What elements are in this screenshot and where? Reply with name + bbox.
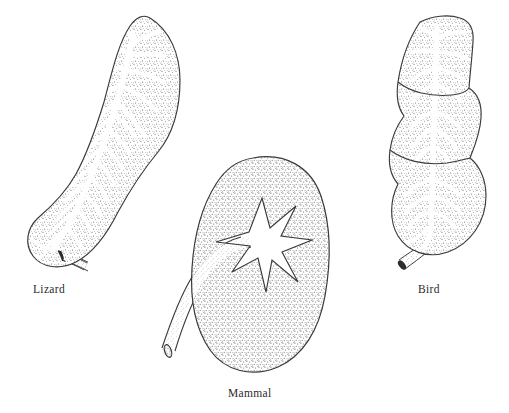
bird-kidney-illustration <box>385 10 495 270</box>
bird-renal-tissue <box>385 10 495 265</box>
specimen-label-mammal: Mammal <box>228 387 272 399</box>
specimen-label-lizard: Lizard <box>33 283 65 295</box>
comparative-kidney-figure <box>0 0 509 413</box>
mammal-renal-tissue <box>180 148 340 378</box>
mammal-kidney-illustration <box>162 148 340 378</box>
specimen-label-bird: Bird <box>418 283 440 295</box>
